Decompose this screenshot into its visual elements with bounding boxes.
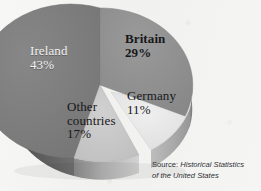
source-title: Historical Statistics [180,160,244,169]
slice-label-ireland-name: Ireland [30,43,68,58]
slice-label-ireland-value: 43% [30,58,68,72]
source-prefix: Source: [152,160,180,169]
slice-label-britain-value: 29% [125,46,165,60]
slice-label-other-countries-name-line2: countries [67,114,116,128]
slice-label-germany: Germany 11% [127,89,176,116]
slice-label-ireland: Ireland 43% [30,44,68,71]
slice-label-britain-name: Britain [125,31,165,46]
source-note: Source: Historical Statistics of the Uni… [152,160,244,182]
source-title-continuation: of the United States [152,171,219,180]
pie-chart: Ireland 43% Britain 29% Other countries … [0,0,261,191]
slice-label-other-countries-value: 17% [67,127,116,141]
slice-label-other-countries-name-line1: Other [67,99,97,114]
slice-label-germany-name: Germany [127,88,176,103]
slice-label-britain: Britain 29% [125,32,165,59]
slice-label-germany-value: 11% [127,103,176,117]
slice-label-other-countries: Other countries 17% [67,100,116,141]
